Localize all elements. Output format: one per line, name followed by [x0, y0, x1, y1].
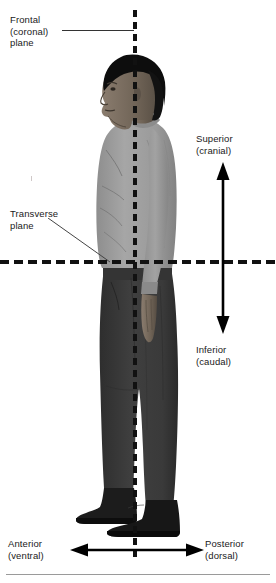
superior-label-line1: Superior: [196, 133, 233, 144]
frontal-plane-label-line1: Frontal: [10, 14, 40, 25]
scan-artifact-speck: [31, 176, 32, 181]
inferior-label-line2: (caudal): [196, 356, 231, 367]
posterior-label-line1: Posterior: [205, 538, 244, 549]
superior-label: Superior(cranial): [196, 133, 233, 156]
superior-label-line2: (cranial): [196, 145, 231, 156]
anterior-label-line1: Anterior: [8, 538, 42, 549]
bottom-divider-rule: [6, 574, 270, 575]
trousers: [100, 264, 178, 516]
anatomical-planes-figure: Frontal(coronal)plane Transverseplane Su…: [0, 0, 276, 583]
transverse-plane-label: Transverseplane: [10, 208, 58, 231]
transverse-plane-label-line1: Transverse: [10, 208, 58, 219]
anterior-label: Anterior(ventral): [8, 538, 44, 561]
frontal-plane-leader-line: [62, 30, 134, 31]
superior-inferior-axis-arrow: [210, 162, 236, 334]
frontal-plane-label-line3: plane: [10, 37, 34, 48]
posterior-label: Posterior(dorsal): [205, 538, 244, 561]
frontal-plane-label: Frontal(coronal)plane: [10, 14, 48, 49]
inferior-label-line1: Inferior: [196, 344, 226, 355]
transverse-plane-label-line2: plane: [10, 220, 34, 231]
frontal-plane-label-line2: (coronal): [10, 26, 48, 37]
inferior-label: Inferior(caudal): [196, 344, 231, 367]
anterior-label-line2: (ventral): [8, 550, 44, 561]
frontal-coronal-plane-line: [133, 10, 137, 558]
anterior-posterior-axis-arrow: [70, 542, 204, 558]
posterior-label-line2: (dorsal): [205, 550, 238, 561]
